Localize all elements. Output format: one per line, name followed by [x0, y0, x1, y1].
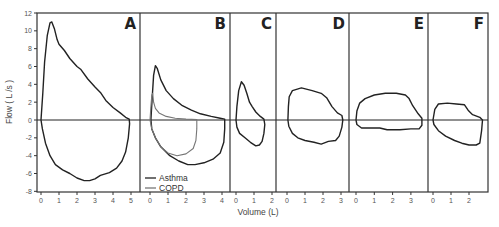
plot-frame [37, 13, 488, 192]
legend-label: Asthma [159, 173, 188, 183]
y-tick-label: 8 [28, 45, 32, 52]
y-tick-label: 12 [24, 10, 32, 17]
y-tick-label: -6 [26, 170, 32, 177]
y-tick-label: 6 [28, 63, 32, 70]
x-tick-label: 3 [339, 197, 343, 204]
curve-asthma [356, 93, 422, 130]
x-tick-label: 3 [93, 197, 97, 204]
x-tick-label: 1 [57, 197, 61, 204]
curve-asthma [151, 66, 225, 165]
y-tick-label: -2 [26, 134, 32, 141]
x-tick-label: 2 [321, 197, 325, 204]
panels: A012345B01234C012D0123E0123F012 [39, 13, 484, 204]
x-axis-label: Volume (L) [237, 207, 278, 217]
y-tick-label: -8 [26, 188, 32, 195]
legend: AsthmaCOPD [145, 173, 188, 193]
x-tick-label: 1 [303, 197, 307, 204]
y-axis-label: Flow ( L /s ) [4, 80, 14, 124]
x-tick-label: 0 [148, 197, 152, 204]
panel-letter: E [414, 15, 424, 33]
x-tick-label: 2 [184, 197, 188, 204]
y-tick-label: -4 [26, 152, 32, 159]
x-tick-label: 0 [354, 197, 358, 204]
curve-asthma [236, 82, 265, 146]
x-tick-label: 1 [449, 197, 453, 204]
x-tick-label: 1 [166, 197, 170, 204]
x-tick-label: 4 [220, 197, 224, 204]
x-tick-label: 0 [234, 197, 238, 204]
y-tick-label: 4 [28, 81, 32, 88]
panel-c: C012 [230, 13, 274, 204]
y-axis: -8-6-4-2024681012 [24, 10, 37, 195]
panel-letter: D [333, 15, 345, 33]
x-tick-label: 5 [129, 197, 133, 204]
flow-volume-chart: -8-6-4-2024681012 A012345B01234C012D0123… [0, 0, 499, 227]
x-tick-label: 2 [75, 197, 79, 204]
x-tick-label: 2 [391, 197, 395, 204]
curve-asthma [433, 103, 483, 145]
y-tick-label: 10 [24, 27, 32, 34]
panel-f: F012 [428, 13, 484, 204]
x-tick-label: 0 [285, 197, 289, 204]
x-tick-label: 1 [372, 197, 376, 204]
x-tick-label: 3 [202, 197, 206, 204]
curve-normal [41, 22, 130, 181]
plot-border [37, 13, 488, 192]
panel-letter: C [261, 15, 272, 33]
y-tick-label: 2 [28, 99, 32, 106]
curve-asthma [288, 88, 343, 144]
y-tick-label: 0 [28, 117, 32, 124]
x-tick-label: 2 [270, 197, 274, 204]
x-tick-label: 4 [111, 197, 115, 204]
x-tick-label: 1 [252, 197, 256, 204]
panel-letter: B [215, 15, 226, 33]
legend-label: COPD [159, 183, 184, 193]
x-tick-label: 3 [409, 197, 413, 204]
curve-copd [150, 93, 197, 155]
x-tick-label: 0 [431, 197, 435, 204]
panel-letter: A [124, 15, 136, 33]
panel-a: A012345 [39, 15, 136, 204]
x-tick-label: 2 [467, 197, 471, 204]
x-tick-label: 0 [39, 197, 43, 204]
panel-letter: F [474, 15, 484, 33]
panel-e: E0123 [349, 13, 424, 204]
panel-d: D0123 [276, 13, 345, 204]
